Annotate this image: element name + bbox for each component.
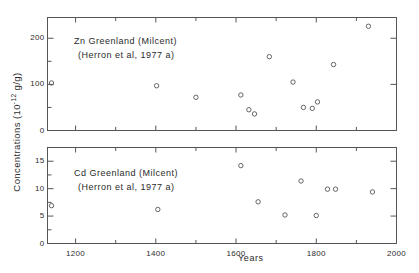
x-tick-label: 1600 (224, 249, 248, 258)
data-point (370, 190, 374, 194)
data-point (291, 80, 295, 84)
data-point (310, 106, 314, 110)
data-point (314, 213, 318, 217)
data-point (156, 207, 160, 211)
data-point (366, 24, 370, 28)
data-point (194, 95, 198, 99)
y-tick-label: 0 (40, 239, 45, 248)
y-tick-label: 10 (35, 184, 45, 193)
data-point (154, 84, 158, 88)
y-tick-label: 200 (30, 33, 44, 42)
data-point (333, 187, 337, 191)
x-tick-label: 1200 (64, 249, 88, 258)
data-point (283, 213, 287, 217)
y-tick-label: 0 (40, 126, 45, 135)
data-point (325, 187, 329, 191)
data-point (252, 112, 256, 116)
plot-frame (48, 18, 397, 131)
cd-panel-subtitle: (Herron et al, 1977 a) (78, 182, 175, 192)
zn-panel-title: Zn Greenland (Milcent) (74, 36, 177, 46)
data-point (239, 93, 243, 97)
scatter-plot-svg (0, 0, 419, 273)
y-axis-units-suffix: g/g) (11, 73, 22, 94)
cd-panel (48, 148, 397, 244)
zn-panel (48, 18, 397, 131)
x-tick-label: 2000 (385, 249, 409, 258)
data-point (267, 55, 271, 59)
plot-frame (48, 148, 397, 244)
x-tick-label: 1800 (304, 249, 328, 258)
data-point (256, 200, 260, 204)
y-tick-label: 100 (30, 79, 44, 88)
cd-panel-title: Cd Greenland (Milcent) (74, 168, 178, 178)
x-tick-label: 1400 (144, 249, 168, 258)
y-tick-label: 15 (35, 156, 45, 165)
zn-panel-subtitle: (Herron et al, 1977 a) (78, 50, 175, 60)
y-axis-title-text: Concentrations (10 (11, 104, 22, 191)
data-point (331, 62, 335, 66)
y-axis-title: Concentrations (10-12 g/g) (10, 62, 22, 202)
y-axis-exponent: -12 (10, 94, 17, 105)
data-point (49, 203, 53, 207)
data-point (315, 100, 319, 104)
y-tick-label: 5 (40, 211, 45, 220)
data-point (239, 163, 243, 167)
data-point (247, 108, 251, 112)
figure-container: Concentrations (10-12 g/g) Years 0100200… (0, 0, 419, 273)
data-point (301, 105, 305, 109)
data-point (299, 179, 303, 183)
